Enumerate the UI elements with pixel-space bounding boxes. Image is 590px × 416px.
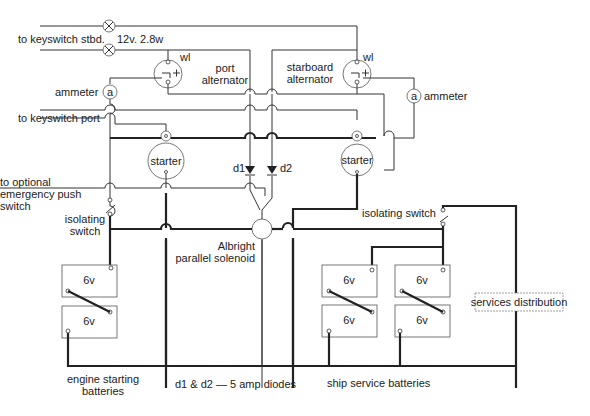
warning-lamp-stbd (103, 20, 115, 32)
label-engine-batteries-1: engine starting (67, 373, 139, 385)
port-heavy-to-solenoid (110, 224, 252, 229)
label-emergency-3: switch (0, 200, 31, 212)
warning-lamp-port (103, 44, 115, 56)
label-ship-batteries: ship service batteries (327, 377, 431, 389)
label-diodes-note: d1 & d2 — 5 amp diodes (175, 378, 297, 390)
label-lamp-rating: 12v. 2.8w (117, 33, 163, 45)
ammeter-right: a (407, 89, 421, 103)
engine-battery-1-voltage: 6v (83, 274, 95, 286)
label-engine-batteries-2: batteries (82, 385, 125, 397)
ship-negative-taps (329, 333, 400, 366)
services-distribution-label: services distribution (471, 296, 568, 308)
label-port-alternator-2: alternator (202, 74, 249, 86)
port-starter-label: starter (150, 155, 182, 167)
label-isolating-left-2: switch (70, 225, 101, 237)
stbd-alt-to-ammeter (363, 78, 414, 89)
ammeter-left: a (103, 85, 117, 99)
label-solenoid-1: Albright (218, 240, 255, 252)
albright-parallel-solenoid (252, 219, 272, 239)
port-alt-output (168, 84, 350, 94)
label-keyswitch-port: to keyswitch port (18, 112, 100, 124)
label-isolating-left-1: isolating (65, 213, 105, 225)
d2-wire (262, 94, 272, 210)
ship-battery-4: 6v (395, 305, 450, 337)
ammeter-left-symbol: a (107, 86, 114, 98)
label-wl-stbd: wl (362, 51, 373, 63)
label-port-alternator-1: port (216, 62, 235, 74)
label-stbd-alternator-1: starboard (287, 61, 333, 73)
starboard-alternator (343, 60, 371, 88)
label-d1: d1 (233, 162, 245, 174)
label-solenoid-2: parallel solenoid (176, 252, 256, 264)
ship-battery-3-voltage: 6v (416, 274, 428, 286)
diode-d1 (245, 166, 255, 175)
ship-battery-2-voltage: 6v (343, 314, 355, 326)
label-ammeter-right: ammeter (424, 90, 468, 102)
port-alt-to-ammeter (110, 78, 162, 84)
label-stbd-alternator-2: alternator (287, 73, 334, 85)
isolating-switch-right (440, 208, 448, 226)
right-switch-to-batteries (372, 226, 443, 268)
label-emergency-1: to optional (0, 176, 51, 188)
stbd-starter-label: starter (341, 154, 373, 166)
wiring-diagram: a starter a starter (0, 0, 590, 416)
diode-d2 (267, 166, 277, 175)
label-isolating-right: isolating switch (362, 207, 436, 219)
label-emergency-2: emergency push (0, 188, 81, 200)
port-alternator (154, 60, 182, 88)
ship-battery-1-voltage: 6v (343, 274, 355, 286)
main-heavy-bus (110, 133, 376, 138)
label-wl-port: wl (179, 51, 190, 63)
ammeter-right-symbol: a (411, 90, 418, 102)
label-ammeter-left: ammeter (55, 86, 99, 98)
services-distribution-box: services distribution (471, 293, 568, 311)
ship-battery-4-voltage: 6v (416, 314, 428, 326)
engine-battery-2-voltage: 6v (83, 315, 95, 327)
right-ammeter-wire (394, 103, 414, 138)
d1-wire (250, 94, 260, 210)
label-d2: d2 (280, 162, 292, 174)
label-keyswitch-stbd: to keyswitch stbd. (18, 33, 105, 45)
